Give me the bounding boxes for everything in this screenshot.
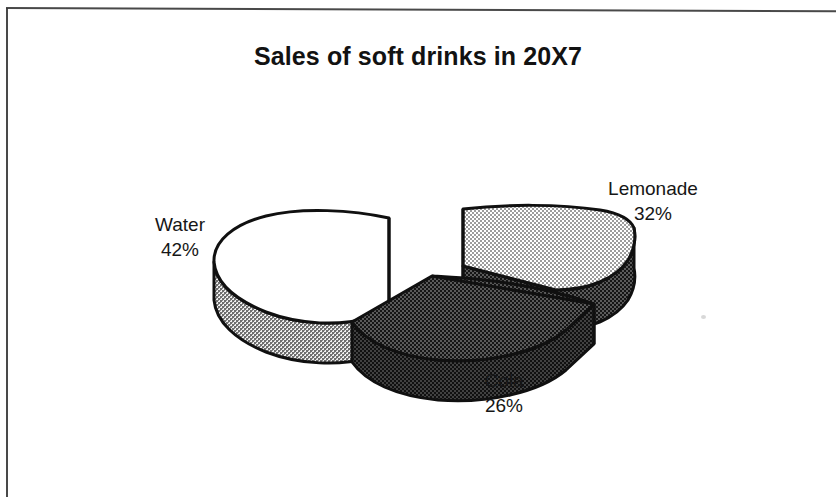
pie-label-cola: Cola 26% <box>444 368 564 418</box>
pie-label-cola-name: Cola <box>444 368 564 393</box>
pie-label-lemonade-name: Lemonade <box>578 176 728 201</box>
pie-label-lemonade: Lemonade 32% <box>578 176 728 226</box>
pie-label-cola-value: 26% <box>444 393 564 418</box>
pie-label-water: Water 42% <box>120 212 240 262</box>
scan-artifact-speck <box>701 315 706 319</box>
figure-root: Sales of soft drinks in 20X7 <box>0 0 836 497</box>
pie-label-water-name: Water <box>120 212 240 237</box>
pie-label-water-value: 42% <box>120 237 240 262</box>
pie-label-lemonade-value: 32% <box>578 201 728 226</box>
